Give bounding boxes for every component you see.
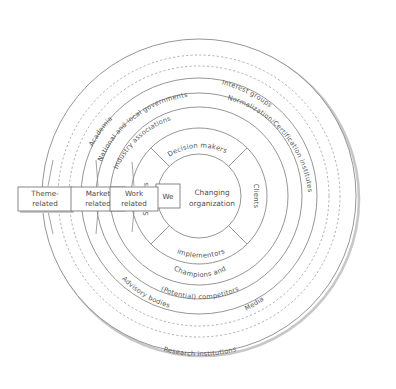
we-box-label: We — [162, 192, 174, 201]
center-label-line1: Changing — [194, 188, 229, 197]
center-label-line2: organization — [189, 199, 235, 208]
market-related-label-line1: Market — [86, 189, 111, 198]
concentric-stakeholder-diagram: Research institutions Academia Interest … — [0, 0, 396, 389]
work-related-label-line1: Work — [125, 189, 144, 198]
diagram-canvas: Research institutions Academia Interest … — [0, 0, 396, 389]
theme-related-label-line2: related — [32, 199, 57, 208]
market-related-label-line2: related — [85, 199, 110, 208]
work-related-label-line2: related — [121, 199, 146, 208]
theme-related-label-line1: Theme- — [30, 189, 59, 198]
quadrant-label-clients: Clients — [252, 184, 260, 209]
